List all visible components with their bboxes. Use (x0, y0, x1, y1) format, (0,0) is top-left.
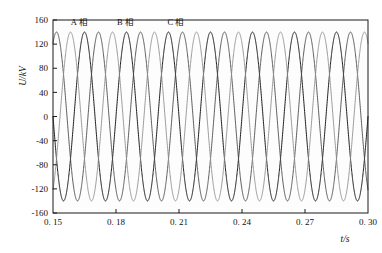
x-tick-label: 0. 18 (107, 217, 126, 227)
series-label-c: C 相 (167, 17, 184, 27)
x-tick-label: 0. 27 (296, 217, 315, 227)
y-tick-label: 120 (35, 39, 49, 49)
y-tick-label: 80 (39, 63, 49, 73)
y-tick-label: -80 (36, 160, 48, 170)
plot-background (53, 20, 368, 213)
x-tick-label: 0. 15 (44, 217, 63, 227)
series-label-a: A 相 (71, 17, 88, 27)
series-label-b: B 相 (117, 17, 134, 27)
x-axis-label: t/s (341, 234, 350, 244)
y-tick-label: -40 (36, 136, 48, 146)
x-tick-label: 0. 21 (170, 217, 188, 227)
y-tick-label: -120 (32, 184, 49, 194)
y-tick-label: 0 (44, 112, 49, 122)
y-tick-label: 40 (39, 88, 49, 98)
x-tick-label: 0. 30 (359, 217, 378, 227)
chart-figure: 16012080400-40-80-120-160 0. 150. 180. 2… (0, 0, 382, 253)
x-tick-label: 0. 24 (233, 217, 252, 227)
y-axis-label: U/kV (18, 65, 28, 86)
chart-canvas: 16012080400-40-80-120-160 0. 150. 180. 2… (0, 0, 382, 253)
y-tick-label: 160 (35, 15, 49, 25)
